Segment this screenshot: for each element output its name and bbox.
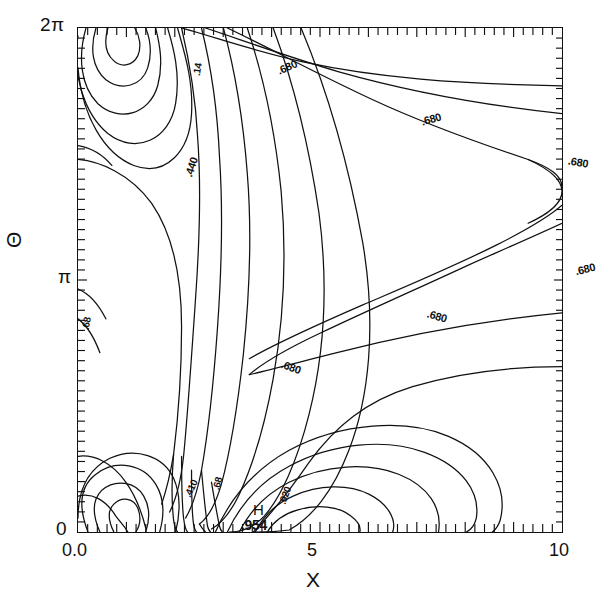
contour-path-oval-mid — [239, 467, 439, 532]
contour-label-954: .954 — [241, 517, 267, 533]
contour-path-c — [186, 28, 222, 518]
plot-area: .680 .680 .680 .680 .680 .680 .440 .14 .… — [77, 27, 563, 533]
x-axis-ticks-bottom — [88, 522, 553, 532]
contour-path-a — [78, 159, 182, 504]
y-tick-label-2pi: 2π — [40, 14, 65, 36]
contour-label-68-leftedge: .68 — [80, 316, 93, 330]
x-axis-title: X — [306, 568, 320, 592]
contour-path-nest5 — [78, 28, 192, 168]
contour-label-680-right-upper: .680 — [567, 154, 589, 169]
y-tick-label-pi: π — [58, 266, 71, 288]
y-axis-title: Θ — [2, 232, 26, 248]
contour-path-014 — [106, 28, 140, 65]
contour-path-left4 — [78, 456, 146, 528]
contour-label-14: .14 — [191, 62, 204, 76]
contour-path-680-top-b — [205, 28, 562, 114]
y-axis-ticks-right — [554, 38, 562, 522]
contour-path-680-mid-a — [249, 223, 562, 374]
contour-figure: .680 .680 .680 .680 .680 .680 .440 .14 .… — [0, 0, 596, 603]
contour-svg — [78, 28, 562, 532]
contour-path-bl4 — [78, 453, 179, 532]
contour-path-b — [170, 28, 200, 512]
contour-label-680-right-mid: .680 — [574, 261, 596, 278]
x-tick-label-5: 5 — [307, 540, 317, 561]
contour-path-bl3 — [82, 465, 163, 532]
x-tick-label-10: 10 — [549, 540, 569, 561]
y-axis-ticks-left — [78, 38, 87, 522]
contour-path-e — [211, 28, 284, 529]
y-tick-label-0: 0 — [56, 518, 67, 540]
contour-path-680-top-a — [182, 28, 562, 86]
contour-path-left2 — [78, 289, 106, 319]
contour-path-d — [199, 28, 249, 524]
contour-path-fan6 — [199, 524, 205, 532]
contour-path-bl2 — [94, 483, 149, 532]
contour-path-oval-920 — [255, 487, 393, 532]
contour-path-lower-sweep — [253, 367, 562, 532]
high-marker-H: H — [253, 501, 264, 518]
x-tick-label-0: 0.0 — [62, 540, 87, 561]
contour-path-nest2 — [93, 28, 151, 86]
contour-path-680-upper2 — [249, 205, 562, 358]
contour-path-fan4 — [201, 470, 210, 532]
